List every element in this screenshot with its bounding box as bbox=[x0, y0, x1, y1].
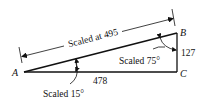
angle-b-marker: Scaled 75° bbox=[119, 38, 176, 67]
extension-line-a bbox=[19, 47, 22, 63]
dimension-line-left bbox=[22, 46, 64, 57]
base-label: 478 bbox=[93, 76, 108, 86]
angle-b-arc bbox=[160, 38, 176, 51]
triangle-diagram: Scaled at 495 Scaled 15° Scaled 75° 127 … bbox=[0, 0, 204, 104]
height-label: 127 bbox=[181, 48, 196, 58]
vertex-b-label: B bbox=[180, 27, 186, 38]
vertex-a-label: A bbox=[11, 67, 19, 78]
angle-b-label: Scaled 75° bbox=[119, 56, 160, 66]
angle-a-label: Scaled 15° bbox=[43, 89, 84, 99]
angle-a-arc-bottom bbox=[76, 63, 77, 71]
angle-b-leader bbox=[153, 47, 165, 49]
extension-line-b bbox=[172, 9, 175, 26]
hypotenuse-label: Scaled at 495 bbox=[67, 27, 119, 49]
hypotenuse-dimension: Scaled at 495 bbox=[19, 9, 175, 63]
vertex-c-label: C bbox=[180, 68, 187, 79]
dimension-line-right bbox=[122, 19, 173, 32]
